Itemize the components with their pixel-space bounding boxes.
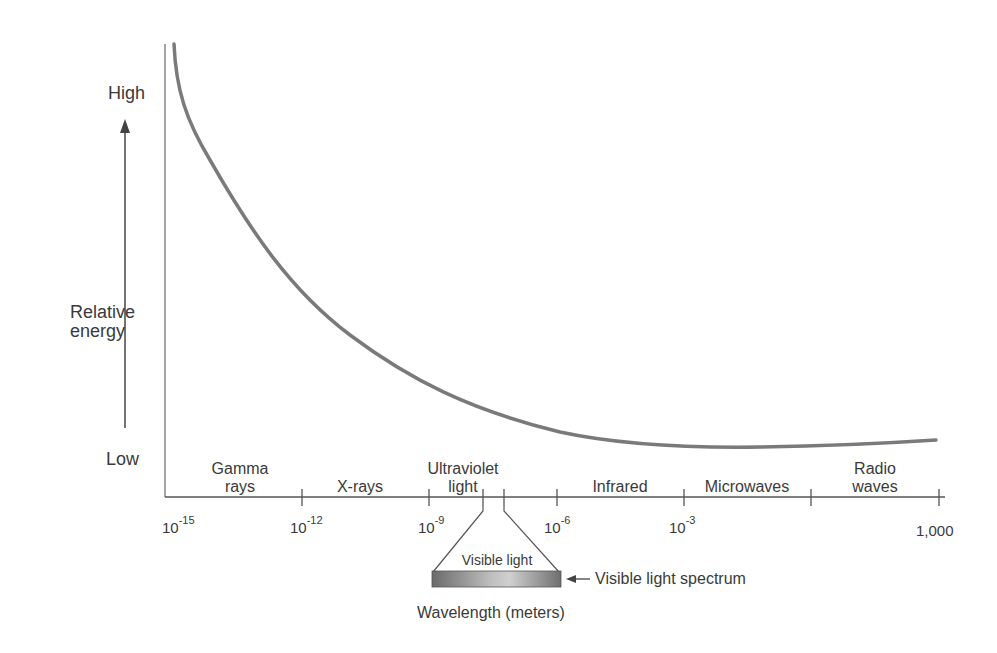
visible-spectrum-callout: Visible light spectrum (595, 570, 746, 588)
visible-light-inset-label: Visible light (447, 551, 547, 569)
tick-label-1e-6: 10-6 (544, 517, 570, 536)
tick-label-1000: 1,000 (916, 522, 954, 539)
up-arrow-icon (120, 119, 130, 133)
tick-label-1e-3: 10-3 (669, 517, 695, 536)
band-label: Gamma (190, 460, 290, 478)
y-high-label: High (108, 83, 145, 103)
tick-label-1e-9: 10-9 (418, 517, 444, 536)
band-gamma-rays: Gamma rays (190, 460, 290, 496)
band-label: waves (825, 478, 925, 496)
band-label: Ultraviolet (413, 460, 513, 478)
energy-curve (174, 44, 936, 447)
y-axis-title-line1: Relative (70, 302, 135, 322)
band-x-rays: X-rays (310, 478, 410, 496)
tick-label-1e-12: 10-12 (290, 517, 323, 536)
band-label: light (413, 478, 513, 496)
left-arrow-icon (566, 575, 576, 583)
x-axis-title: Wavelength (meters) (417, 604, 565, 622)
band-ultraviolet: Ultraviolet light (413, 460, 513, 496)
band-label: rays (190, 478, 290, 496)
tick-label-1e-15: 10-15 (162, 517, 195, 536)
band-radio-waves: Radio waves (825, 460, 925, 496)
band-infrared: Infrared (570, 478, 670, 496)
y-axis-title-line2: energy (70, 321, 125, 341)
y-low-label: Low (106, 449, 139, 469)
visible-spectrum-bar (432, 571, 561, 587)
band-microwaves: Microwaves (697, 478, 797, 496)
band-label: Radio (825, 460, 925, 478)
